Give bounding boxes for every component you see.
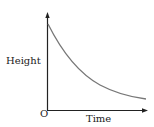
height-time-chart: Height O Time (0, 0, 154, 127)
decay-curve (48, 24, 146, 99)
y-axis-label: Height (6, 55, 41, 66)
x-axis-label: Time (86, 113, 111, 124)
x-axis-arrow-icon (142, 108, 148, 112)
y-axis-arrow-icon (45, 12, 49, 18)
origin-label: O (40, 108, 48, 119)
